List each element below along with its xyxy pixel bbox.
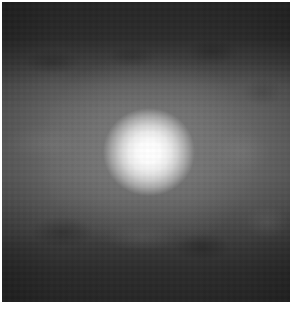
pixel-grain (2, 2, 290, 302)
grayscale-image (2, 2, 290, 302)
